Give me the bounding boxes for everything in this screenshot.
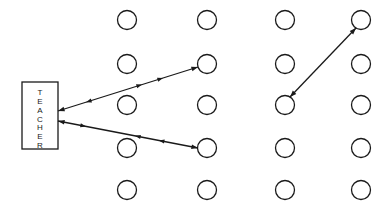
student-circle-c2-r1: [198, 11, 217, 30]
student-circle-c3-r4: [276, 139, 295, 158]
arrowhead-icon: [58, 107, 65, 112]
student-circle-c1-r3: [118, 96, 137, 115]
student-circle-c4-r4: [352, 139, 371, 158]
arrowhead-icon: [157, 78, 163, 82]
student-circle-c2-r3: [198, 96, 217, 115]
arrowhead-icon: [191, 67, 198, 72]
student-circle-c4-r2: [352, 55, 371, 74]
student-circle-c3-r3: [276, 96, 295, 115]
student-grid: [118, 11, 371, 200]
teacher-box: TEACHER: [22, 82, 58, 150]
student-circle-c1-r5: [118, 181, 137, 200]
teacher-label-letter: E: [37, 97, 42, 106]
teacher-label-letter: E: [37, 132, 42, 141]
student-circle-c1-r1: [118, 11, 137, 30]
arrowhead-icon: [86, 99, 92, 103]
student-circle-c4-r1: [352, 11, 371, 30]
arrowhead-icon: [136, 84, 142, 88]
student-circle-c1-r2: [118, 55, 137, 74]
teacher-label-letter: R: [37, 141, 43, 150]
student-circle-c4-r3: [352, 96, 371, 115]
student-circle-c3-r1: [276, 11, 295, 30]
student-circle-c1-r4: [118, 139, 137, 158]
classroom-interaction-diagram: TEACHER: [0, 0, 390, 217]
student-circle-c2-r4: [198, 139, 217, 158]
interaction-arrows: [58, 28, 356, 149]
interaction-line: [290, 28, 356, 97]
student-circle-c2-r2: [198, 55, 217, 74]
teacher-label-letter: H: [37, 123, 43, 132]
teacher-label-letter: A: [37, 106, 43, 115]
student-circle-c3-r5: [276, 181, 295, 200]
teacher-label-letter: C: [37, 115, 43, 124]
teacher-label-letter: T: [38, 88, 43, 97]
student-circle-c3-r2: [276, 55, 295, 74]
student-circle-c2-r5: [198, 181, 217, 200]
student-circle-c4-r5: [352, 181, 371, 200]
